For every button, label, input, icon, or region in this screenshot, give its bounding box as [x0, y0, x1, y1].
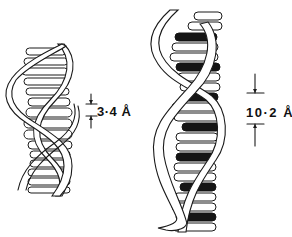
helix-repeat-spacing-label: 10·2 Å [246, 105, 292, 120]
left-dimension-marker [86, 94, 97, 128]
dna-figure: 3·4 Å 10·2 Å [0, 0, 292, 237]
base-pair-spacing-label: 3·4 Å [97, 104, 131, 119]
left-helix [6, 44, 79, 196]
right-helix [151, 10, 225, 232]
